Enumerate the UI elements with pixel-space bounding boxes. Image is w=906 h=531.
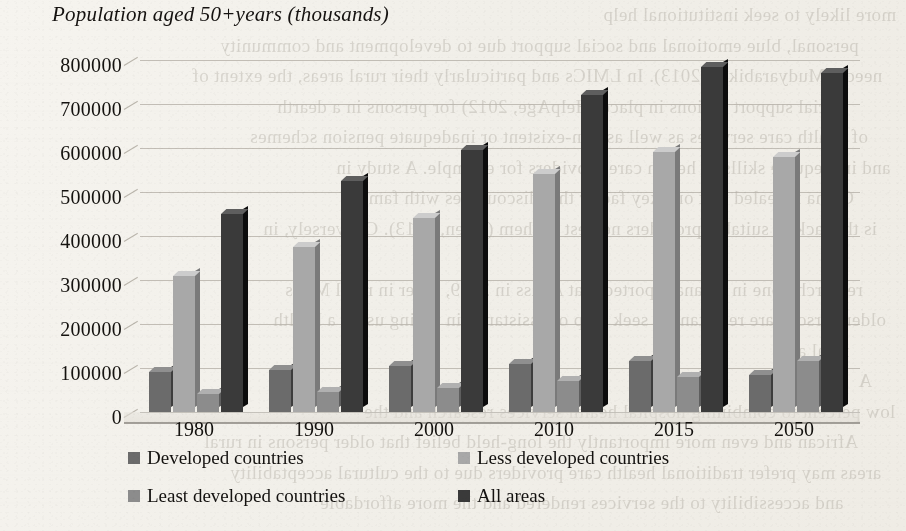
bar	[773, 157, 795, 412]
bar	[557, 381, 579, 412]
bar-face	[221, 214, 243, 412]
y-axis-tick-label: 400000	[60, 230, 122, 253]
bar-side	[483, 142, 488, 407]
x-axis-tick-label: 2015	[654, 418, 694, 441]
bar-face	[197, 394, 219, 412]
x-axis-tick-label: 2010	[534, 418, 574, 441]
bar	[533, 174, 555, 412]
bar	[413, 218, 435, 412]
bar-face	[461, 150, 483, 412]
bar-side	[675, 144, 680, 407]
bar	[701, 67, 723, 412]
bar	[341, 181, 363, 412]
bar-side	[363, 173, 368, 407]
x-axis-tick-label: 1980	[174, 418, 214, 441]
plot-area	[140, 60, 860, 412]
x-axis-labels: 198019902000201020152050	[140, 418, 860, 448]
bar-face	[797, 361, 819, 412]
legend-item[interactable]: Developed countries	[128, 447, 304, 469]
bar-face	[389, 366, 411, 412]
bar	[293, 247, 315, 412]
bar-face	[701, 67, 723, 412]
legend-item[interactable]: All areas	[458, 485, 545, 507]
y-axis-tick-label: 100000	[60, 362, 122, 385]
legend-label: All areas	[477, 485, 545, 507]
bar-face	[773, 157, 795, 412]
legend-label: Least developed countries	[147, 485, 345, 507]
bar-face	[581, 95, 603, 412]
chart-figure: Population aged 50+years (thousands) 010…	[0, 0, 906, 531]
bar	[797, 361, 819, 412]
x-axis-tick-label: 2000	[414, 418, 454, 441]
y-axis-tick-label: 700000	[60, 98, 122, 121]
bar-side	[243, 206, 248, 407]
x-axis-tick-label: 1990	[294, 418, 334, 441]
bar	[581, 95, 603, 412]
bar	[221, 214, 243, 412]
x-axis-tick-label: 2050	[774, 418, 814, 441]
bar	[173, 276, 195, 412]
bar	[677, 377, 699, 412]
bar	[509, 364, 531, 412]
bar	[149, 372, 171, 412]
scanned-chart-page: more likely to seek institutional helppe…	[0, 0, 906, 531]
y-axis-tick-label: 600000	[60, 142, 122, 165]
legend-swatch	[458, 490, 470, 502]
bar-series-container	[140, 60, 860, 412]
bar-face	[341, 181, 363, 412]
y-axis-tick-label: 0	[112, 406, 122, 429]
y-axis-labels: 0100000200000300000400000500000600000700…	[0, 0, 136, 531]
bar	[317, 392, 339, 412]
bar-side	[603, 87, 608, 407]
bar	[269, 370, 291, 412]
y-axis-tick-label: 500000	[60, 186, 122, 209]
bar-face	[629, 361, 651, 412]
bar	[629, 361, 651, 412]
bar-side	[555, 166, 560, 407]
bar	[437, 388, 459, 412]
bar	[653, 152, 675, 412]
bar-face	[317, 392, 339, 412]
bar-side	[843, 65, 848, 407]
legend-label: Less developed countries	[477, 447, 669, 469]
legend-item[interactable]: Less developed countries	[458, 447, 669, 469]
legend-swatch	[458, 452, 470, 464]
bar	[389, 366, 411, 412]
bar-face	[557, 381, 579, 412]
bar	[749, 375, 771, 412]
bar	[461, 150, 483, 412]
y-axis-tick-label: 300000	[60, 274, 122, 297]
bar-face	[677, 377, 699, 412]
bar-side	[315, 239, 320, 407]
bar-face	[509, 364, 531, 412]
bar-face	[269, 370, 291, 412]
bar-side	[195, 267, 200, 407]
bar-face	[413, 218, 435, 412]
bar-face	[437, 388, 459, 412]
bar-face	[653, 152, 675, 412]
bar	[821, 73, 843, 412]
bar-face	[749, 375, 771, 412]
bar-side	[723, 58, 728, 407]
y-axis-tick-label: 200000	[60, 318, 122, 341]
legend-swatch	[128, 490, 140, 502]
legend-swatch	[128, 452, 140, 464]
chart-legend: Developed countriesLess developed countr…	[128, 447, 748, 525]
legend-label: Developed countries	[147, 447, 304, 469]
bar-side	[435, 210, 440, 407]
legend-item[interactable]: Least developed countries	[128, 485, 345, 507]
bar-face	[293, 247, 315, 412]
bar	[197, 394, 219, 412]
bar-face	[173, 276, 195, 412]
bar-face	[149, 372, 171, 412]
bar-face	[533, 174, 555, 412]
y-axis-tick-label: 800000	[60, 54, 122, 77]
bar-face	[821, 73, 843, 412]
